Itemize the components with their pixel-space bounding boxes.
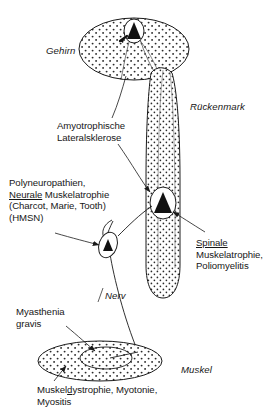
diagram-root: Gehirn Rückenmark Amyotrophische Lateral…: [0, 0, 272, 418]
spinal-cord-shape: [146, 68, 180, 298]
spinale-line-3: Poliomyelitis: [196, 260, 263, 272]
label-muskeldystrophie: Muskeldystrophie, Myotonie, Myositis: [37, 384, 157, 407]
label-rueckenmark-text: Rückenmark: [190, 101, 245, 112]
label-amyotrophische-lateralsklerose: Amyotrophische Lateralsklerose: [57, 120, 125, 143]
label-rueckenmark: Rückenmark: [190, 101, 245, 113]
dystrophie-line-1: Muskeldystrophie, Myotonie,: [37, 384, 157, 396]
polyneuro-line-1: Polyneuropathien,: [9, 177, 109, 189]
polyneuro-line-2: Neurale Muskelatrophie: [9, 189, 109, 201]
spinale-line-2: Muskelatrophie,: [196, 249, 263, 261]
label-nerv: Nerv: [105, 290, 126, 302]
als-line-1: Amyotrophische: [57, 120, 125, 132]
myasthenia-line-1: Myasthenia: [16, 306, 65, 318]
label-polyneuropathien: Polyneuropathien, Neurale Muskelatrophie…: [9, 177, 109, 223]
dystrophie-line-1-a: Muskel: [37, 384, 67, 395]
label-muskel: Muskel: [181, 364, 212, 376]
pointer-polyneuro: [55, 233, 99, 245]
label-spinale-muskelatrophie: Spinale Muskelatrophie, Poliomyelitis: [196, 237, 263, 272]
polyneuro-line-4: (HMSN): [9, 212, 109, 224]
label-myasthenia-gravis: Myasthenia gravis: [16, 306, 65, 329]
lower-motor-neuron: [150, 187, 176, 219]
als-line-2: Lateralsklerose: [57, 132, 125, 144]
dystrophie-line-2: Myositis: [37, 396, 157, 408]
polyneuro-line-2-rest: Muskelatrophie: [42, 189, 109, 200]
polyneuro-underlined-word: Neurale: [9, 189, 42, 200]
spinale-line-1: Spinale: [196, 237, 263, 249]
polyneuro-line-3: (Charcot, Marie, Tooth): [9, 200, 109, 212]
label-gehirn: Gehirn: [46, 45, 75, 57]
label-gehirn-text: Gehirn: [46, 45, 75, 56]
myasthenia-line-2: gravis: [16, 318, 65, 330]
label-muskel-text: Muskel: [181, 364, 212, 375]
pointer-als-brain: [112, 76, 126, 118]
pointer-als-cord: [118, 144, 150, 192]
peripheral-nerve-neuron: [95, 230, 120, 260]
dystrophie-line-1-b: ystrophie, Myotonie,: [72, 384, 157, 395]
label-nerv-text: Nerv: [105, 290, 126, 301]
muscle-shape: [38, 341, 162, 381]
pointer-nerv: [98, 288, 103, 302]
peripheral-axon: [103, 206, 152, 352]
